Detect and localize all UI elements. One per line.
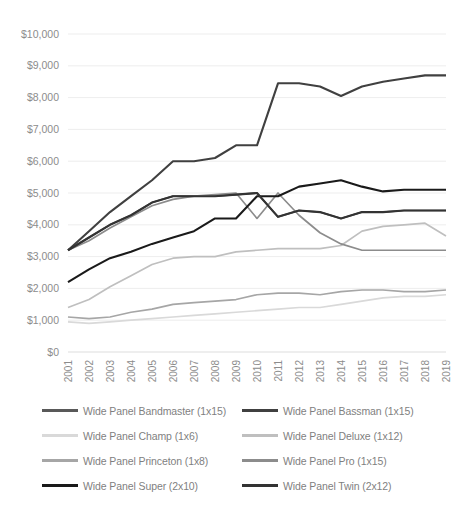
legend-item[interactable]: Wide Panel Deluxe (1x12) [242, 430, 442, 442]
legend-label: Wide Panel Bassman (1x15) [283, 405, 414, 417]
line-chart: $10,000$9,000$8,000$7,000$6,000$5,000$4,… [0, 0, 454, 518]
legend-swatch-icon [242, 434, 278, 437]
y-axis-tick-label: $10,000 [21, 28, 59, 40]
legend-label: Wide Panel Twin (2x12) [283, 480, 392, 492]
legend-swatch-icon [42, 484, 78, 487]
x-axis-tick-label: 2001 [63, 360, 74, 383]
chart-plot-area: $10,000$9,000$8,000$7,000$6,000$5,000$4,… [0, 0, 454, 400]
legend-label: Wide Panel Pro (1x15) [283, 455, 387, 467]
legend-label: Wide Panel Princeton (1x8) [83, 455, 208, 467]
y-axis-tick-label: $7,000 [27, 123, 59, 135]
legend-item[interactable]: Wide Panel Bandmaster (1x15) [42, 405, 242, 417]
y-axis-tick-label: $1,000 [27, 314, 59, 326]
x-axis-tick-label: 2009 [231, 360, 242, 383]
x-axis-tick-label: 2017 [399, 360, 410, 383]
x-axis-tick-label: 2013 [315, 360, 326, 383]
legend-item[interactable]: Wide Panel Princeton (1x8) [42, 455, 242, 467]
x-axis-tick-label: 2015 [357, 360, 368, 383]
y-axis-tick-label: $0 [47, 346, 59, 358]
x-axis-tick-label: 2011 [273, 360, 284, 382]
x-axis-tick-label: 2005 [147, 360, 158, 383]
y-axis-tick-label: $4,000 [27, 218, 59, 230]
x-axis-tick-label: 2019 [441, 360, 452, 383]
series-line-wide-panel-princeton-1x8 [68, 290, 446, 319]
x-axis-tick-label: 2016 [378, 360, 389, 383]
y-axis-tick-label: $8,000 [27, 91, 59, 103]
y-axis-tick-label: $3,000 [27, 250, 59, 262]
legend-label: Wide Panel Super (2x10) [83, 480, 198, 492]
series-line-wide-panel-bassman-1x15 [68, 75, 446, 250]
x-axis-tick-label: 2018 [420, 360, 431, 383]
x-axis-tick-label: 2002 [84, 360, 95, 383]
legend-label: Wide Panel Bandmaster (1x15) [83, 405, 226, 417]
legend-swatch-icon [42, 434, 78, 437]
x-axis-tick-label: 2012 [294, 360, 305, 383]
series-line-wide-panel-champ-1x6 [68, 295, 446, 324]
y-axis-tick-label: $9,000 [27, 59, 59, 71]
x-axis-tick-label: 2003 [105, 360, 116, 383]
legend-item[interactable]: Wide Panel Super (2x10) [42, 480, 242, 492]
legend-item[interactable]: Wide Panel Champ (1x6) [42, 430, 242, 442]
y-axis-tick-label: $2,000 [27, 282, 59, 294]
y-axis-tick-label: $5,000 [27, 187, 59, 199]
legend-swatch-icon [42, 459, 78, 462]
y-axis-tick-label: $6,000 [27, 155, 59, 167]
legend-item[interactable]: Wide Panel Twin (2x12) [242, 480, 442, 492]
x-axis-tick-label: 2006 [168, 360, 179, 383]
legend-swatch-icon [242, 459, 278, 462]
legend-item[interactable]: Wide Panel Bassman (1x15) [242, 405, 442, 417]
legend-swatch-icon [242, 409, 278, 412]
legend-item[interactable]: Wide Panel Pro (1x15) [242, 455, 442, 467]
chart-legend: Wide Panel Bandmaster (1x15)Wide Panel B… [42, 398, 442, 498]
legend-label: Wide Panel Deluxe (1x12) [283, 430, 403, 442]
series-line-wide-panel-super-2x10 [68, 180, 446, 282]
x-axis-tick-label: 2008 [210, 360, 221, 383]
x-axis-tick-label: 2014 [336, 360, 347, 383]
legend-label: Wide Panel Champ (1x6) [83, 430, 198, 442]
x-axis-tick-label: 2010 [252, 360, 263, 383]
legend-swatch-icon [42, 409, 78, 412]
x-axis-tick-label: 2004 [126, 360, 137, 383]
x-axis-tick-label: 2007 [189, 360, 200, 383]
legend-swatch-icon [242, 484, 278, 487]
